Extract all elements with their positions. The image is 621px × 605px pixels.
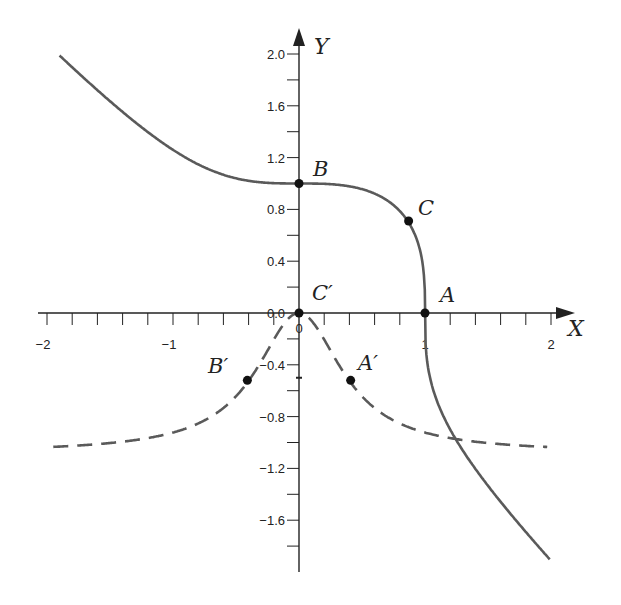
point-c [404,217,413,226]
y-tick-label: −0.8 [259,410,285,425]
x-tick-label: −2 [36,337,51,352]
point-label-a: A [438,283,455,307]
x-axis-label: X [566,316,585,341]
point-a-prime [346,376,355,385]
point-label-b-prime: B′ [207,354,228,378]
point-a [421,309,430,318]
y-axis-arrow-icon [293,28,305,46]
y-tick-label: 0.8 [267,202,285,217]
point-c-prime [295,309,304,318]
y-tick-label: 0.4 [267,254,285,269]
y-tick-label: −1.2 [259,461,285,476]
point-b-prime [243,376,252,385]
y-tick-label: −1.6 [259,513,285,528]
point-label-b: B [312,157,328,181]
y-axis-label: Y [314,34,331,59]
point-label-c-prime: C′ [312,281,333,305]
point-b [295,179,304,188]
y-tick-label: 1.6 [267,99,285,114]
point-label-a-prime: A′ [356,351,378,375]
y-tick-label: 1.2 [267,151,285,166]
curves [53,56,549,560]
y-tick-label: −0.4 [259,358,285,373]
function-plot: −2−10122.01.61.20.80.40.0−0.4−0.8−1.2−1.… [0,0,621,605]
y-tick-label: 0.0 [267,306,285,321]
x-tick-label: −1 [162,337,177,352]
point-label-c: C [418,196,434,220]
solid-curve [60,56,550,560]
y-tick-label: 2.0 [267,47,285,62]
axes: −2−10122.01.61.20.80.40.0−0.4−0.8−1.2−1.… [36,28,575,572]
x-tick-label: 2 [547,337,554,352]
x-tick-label: 0 [295,321,302,336]
